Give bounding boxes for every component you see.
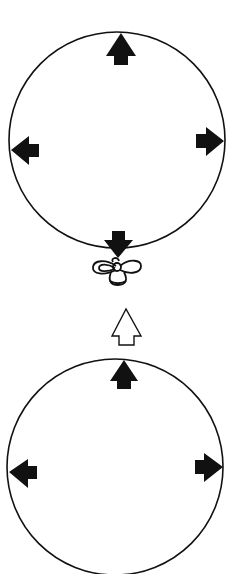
arrow-up-icon bbox=[106, 33, 136, 65]
balloon-pressure-diagram bbox=[0, 0, 236, 574]
arrow-right-icon bbox=[195, 453, 223, 482]
balloon-knot-icon bbox=[93, 258, 141, 285]
transition-arrow-up-icon bbox=[112, 309, 141, 345]
balloon-outline bbox=[7, 359, 223, 574]
arrow-down-icon bbox=[104, 231, 133, 258]
arrow-left-icon bbox=[9, 459, 37, 488]
arrow-up-icon bbox=[110, 360, 138, 389]
arrow-right-icon bbox=[196, 127, 224, 156]
open-balloon bbox=[7, 359, 223, 574]
arrow-left-icon bbox=[11, 136, 39, 165]
inflated-balloon bbox=[9, 32, 225, 285]
